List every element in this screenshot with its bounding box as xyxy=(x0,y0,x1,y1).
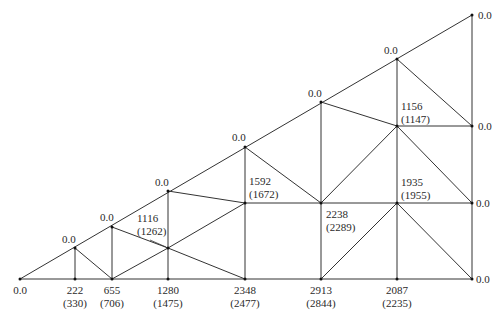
truss-joint xyxy=(471,14,474,17)
top-label-1: 0.0 xyxy=(100,211,114,224)
label-leader-arrow xyxy=(150,240,166,247)
node-value: 1280 xyxy=(153,284,182,297)
truss-joint xyxy=(111,226,114,229)
node-value: 1592 xyxy=(249,175,278,188)
node-value: 0.0 xyxy=(13,284,27,296)
truss-member xyxy=(397,203,472,279)
node-paren-value: (1475) xyxy=(153,297,182,310)
interior-label-0: 1116 (1262) xyxy=(137,212,166,238)
node-paren-value: (1262) xyxy=(137,225,166,238)
top-label-5: 0.0 xyxy=(384,44,398,57)
truss-joint xyxy=(471,125,474,128)
truss-member xyxy=(168,203,245,248)
truss-joint xyxy=(244,278,247,281)
truss-joint xyxy=(19,278,22,281)
truss-joint xyxy=(320,202,323,205)
truss-joint xyxy=(74,247,77,250)
right-label-2: 0.0 xyxy=(476,197,490,210)
node-paren-value: (2844) xyxy=(306,297,335,310)
node-paren-value: (1672) xyxy=(249,188,278,201)
truss-member xyxy=(168,248,245,279)
truss-joint xyxy=(396,58,399,61)
truss-joint xyxy=(471,202,474,205)
top-label-0: 0.0 xyxy=(62,233,76,246)
bottom-label-1: 222 (330) xyxy=(63,284,87,310)
node-value: 655 xyxy=(100,284,124,297)
truss-joint xyxy=(244,202,247,205)
truss-joint xyxy=(167,190,170,193)
truss-member xyxy=(321,102,397,126)
truss-joint xyxy=(244,146,247,149)
bottom-label-2: 655 (706) xyxy=(100,284,124,310)
bottom-label-0: 0.0 xyxy=(13,284,27,297)
node-value: 2348 xyxy=(230,284,259,297)
bottom-label-3: 1280 (1475) xyxy=(153,284,182,310)
top-label-2: 0.0 xyxy=(155,176,169,189)
truss-joint xyxy=(320,101,323,104)
truss-member xyxy=(168,191,245,203)
truss-joint xyxy=(111,278,114,281)
node-value: 222 xyxy=(63,284,87,297)
node-paren-value: (1955) xyxy=(401,189,430,202)
node-paren-value: (330) xyxy=(63,297,87,310)
truss-member xyxy=(112,248,168,279)
node-value: 2238 xyxy=(326,208,355,221)
top-label-3: 0.0 xyxy=(232,131,246,144)
node-paren-value: (2235) xyxy=(382,297,411,310)
truss-joint xyxy=(396,125,399,128)
truss-joint xyxy=(471,278,474,281)
node-value: 2087 xyxy=(382,284,411,297)
top-label-4: 0.0 xyxy=(308,87,322,100)
interior-label-2: 2238 (2289) xyxy=(326,208,355,234)
interior-label-1: 1592 (1672) xyxy=(249,175,278,201)
node-value: 1156 xyxy=(401,100,430,113)
interior-label-4: 1935 (1955) xyxy=(401,176,430,202)
right-label-0: 0.0 xyxy=(478,9,492,22)
right-label-3: 0.0 xyxy=(476,273,490,286)
node-paren-value: (2477) xyxy=(230,297,259,310)
node-paren-value: (1147) xyxy=(401,113,430,126)
truss-joint xyxy=(167,247,170,250)
node-value: 1935 xyxy=(401,176,430,189)
bottom-label-5: 2913 (2844) xyxy=(306,284,335,310)
node-paren-value: (706) xyxy=(100,297,124,310)
node-value: 2913 xyxy=(306,284,335,297)
bottom-label-4: 2348 (2477) xyxy=(230,284,259,310)
truss-joint xyxy=(320,278,323,281)
truss-joint xyxy=(396,278,399,281)
truss-member xyxy=(75,248,112,279)
bottom-label-6: 2087 (2235) xyxy=(382,284,411,310)
truss-member xyxy=(321,126,397,203)
truss-joint xyxy=(74,278,77,281)
truss-joint xyxy=(167,278,170,281)
node-value: 1116 xyxy=(137,212,166,225)
right-label-1: 0.0 xyxy=(478,120,492,133)
node-paren-value: (2289) xyxy=(326,221,355,234)
truss-diagram xyxy=(0,0,504,318)
interior-label-3: 1156 (1147) xyxy=(401,100,430,126)
truss-joint xyxy=(396,202,399,205)
